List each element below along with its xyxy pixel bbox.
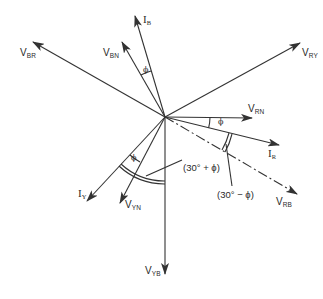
leader-30-minus-phi: [226, 144, 232, 186]
phasor-v-yn: [120, 117, 165, 203]
phi-mark-b: ϕ: [143, 66, 148, 74]
label-v-ry: VRY: [302, 48, 318, 60]
label-v-rb: VRB: [276, 197, 292, 209]
phi-mark-y: ϕ: [131, 154, 136, 162]
label-i-y: IY: [78, 188, 87, 201]
label-i-r: IR: [268, 148, 276, 161]
phasor-v-ry: [165, 43, 300, 117]
annotation-30-plus-phi: (30° + ϕ): [183, 163, 220, 173]
label-v-yn: VYN: [125, 200, 141, 212]
label-v-yb: VYB: [145, 266, 161, 278]
label-v-br: VBR: [20, 48, 36, 60]
phi-mark-r: ϕ: [218, 118, 223, 126]
leader-30-plus-phi: [146, 160, 182, 176]
phasor-i-y: [87, 117, 165, 201]
annotation-30-minus-phi: (30° − ϕ): [217, 190, 254, 200]
angle-arc-30-minus-phi: [222, 133, 229, 150]
phasor-i-b: [135, 16, 165, 117]
label-i-b: IB: [143, 14, 151, 27]
phasor-v-br: [33, 42, 165, 117]
angle-arc-phi-r: [209, 118, 210, 129]
label-v-bn: VBN: [103, 48, 119, 60]
label-v-rn: VRN: [248, 104, 264, 116]
phasor-v-rn: [165, 117, 252, 118]
phasor-v-bn: [122, 42, 165, 117]
